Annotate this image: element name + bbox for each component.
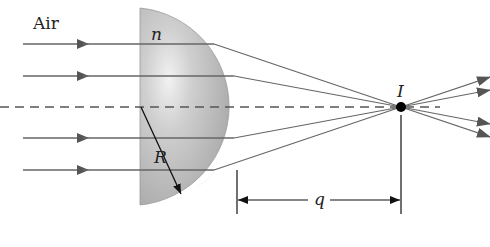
- diverging-rays: [401, 77, 490, 137]
- image-distance-label: q: [314, 189, 325, 209]
- refractive-index-label: n: [151, 24, 162, 44]
- image-point-label: I: [396, 81, 404, 101]
- image-point-dot: [396, 102, 406, 112]
- air-label: Air: [32, 13, 60, 33]
- radius-label: R: [153, 147, 167, 167]
- refraction-diagram: Air n R I q: [0, 0, 490, 247]
